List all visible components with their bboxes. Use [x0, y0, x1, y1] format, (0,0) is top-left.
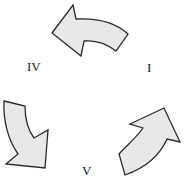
arrow-v-to-i	[119, 108, 180, 175]
arrow-iv-to-v	[4, 101, 48, 168]
cycle-diagram	[0, 0, 192, 185]
node-label-i: I	[147, 61, 151, 74]
arrow-i-to-iv	[52, 5, 128, 56]
node-label-iv: IV	[27, 60, 41, 73]
node-label-v: V	[82, 164, 91, 177]
